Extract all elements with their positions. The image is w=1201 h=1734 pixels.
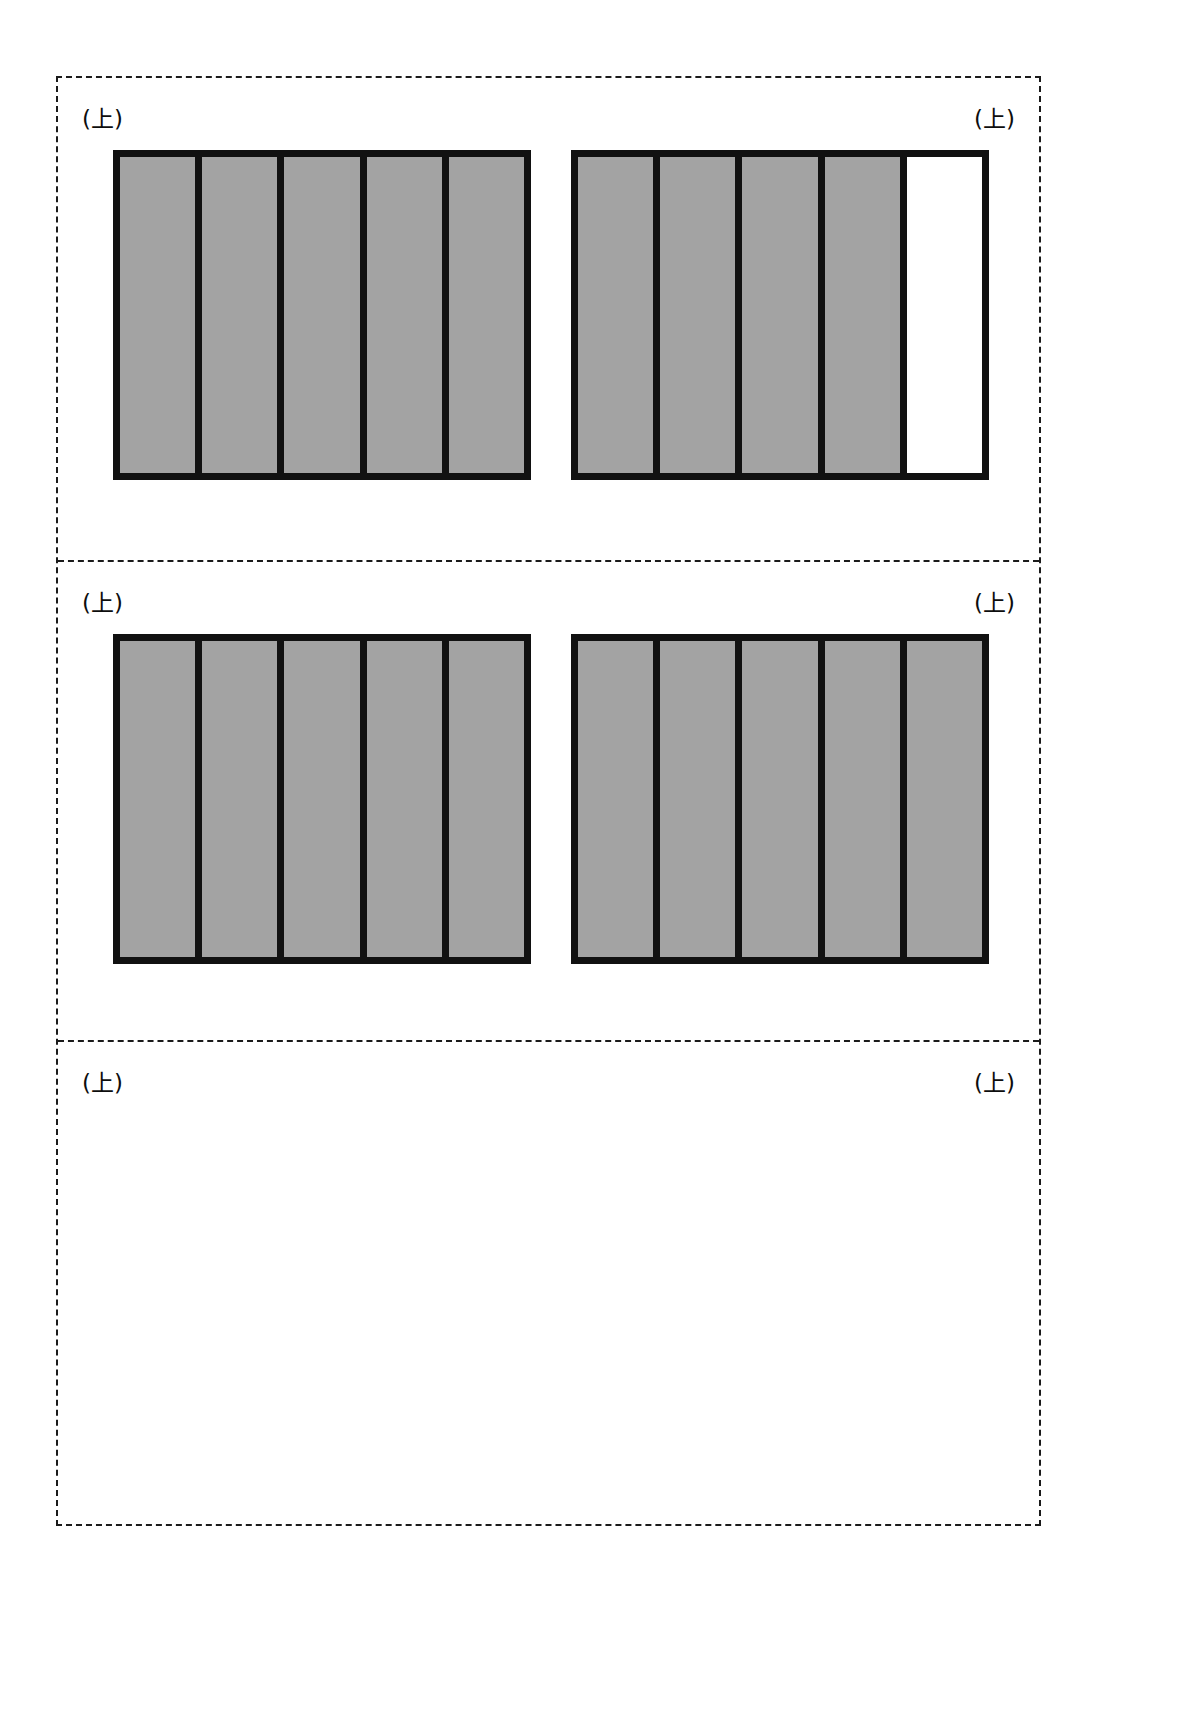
cell-2-right-1[interactable]	[578, 641, 653, 957]
block-2-left[interactable]	[113, 634, 531, 964]
cell-2-left-1[interactable]	[120, 641, 195, 957]
cell-1-right-5[interactable]	[907, 157, 982, 473]
section-1-label-left: (上)	[82, 108, 123, 131]
cell-1-left-2[interactable]	[202, 157, 277, 473]
section-2: (上) (上)	[58, 560, 1039, 1040]
section-3-blank-area	[58, 1114, 1039, 1444]
cell-2-left-3[interactable]	[284, 641, 359, 957]
section-3-label-left: (上)	[82, 1072, 123, 1095]
cell-2-left-4[interactable]	[367, 641, 442, 957]
cell-2-right-2[interactable]	[660, 641, 735, 957]
cell-1-right-3[interactable]	[742, 157, 817, 473]
cell-2-right-4[interactable]	[825, 641, 900, 957]
section-3-label-right: (上)	[974, 1072, 1015, 1095]
cell-2-left-5[interactable]	[449, 641, 524, 957]
cell-2-right-3[interactable]	[742, 641, 817, 957]
cell-2-left-2[interactable]	[202, 641, 277, 957]
cell-1-right-4[interactable]	[825, 157, 900, 473]
block-1-right[interactable]	[571, 150, 989, 480]
page-canvas: (上) (上)	[0, 0, 1201, 1734]
cell-1-left-5[interactable]	[449, 157, 524, 473]
section-1-label-right: (上)	[974, 108, 1015, 131]
section-3: (上) (上)	[58, 1040, 1039, 1524]
block-1-left[interactable]	[113, 150, 531, 480]
section-2-label-left: (上)	[82, 592, 123, 615]
section-1: (上) (上)	[58, 78, 1039, 560]
cell-2-right-5[interactable]	[907, 641, 982, 957]
block-2-right[interactable]	[571, 634, 989, 964]
cell-1-right-2[interactable]	[660, 157, 735, 473]
section-2-block-row	[58, 634, 1039, 964]
section-1-block-row	[58, 150, 1039, 480]
cell-1-left-4[interactable]	[367, 157, 442, 473]
cell-1-left-1[interactable]	[120, 157, 195, 473]
cell-1-left-3[interactable]	[284, 157, 359, 473]
cell-1-right-1[interactable]	[578, 157, 653, 473]
sheet-dashed-frame: (上) (上)	[56, 76, 1041, 1526]
section-2-label-right: (上)	[974, 592, 1015, 615]
